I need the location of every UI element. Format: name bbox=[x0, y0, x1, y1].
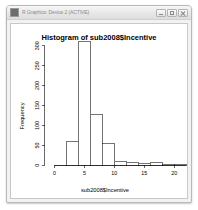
x-tick-label: 15 bbox=[141, 170, 147, 176]
histogram-bar bbox=[78, 42, 90, 166]
histogram-bar bbox=[90, 114, 102, 165]
y-axis: 0 50 100 150 200 250 300 bbox=[34, 41, 45, 167]
chart-title: Histogram of sub2008$Incentive bbox=[41, 33, 156, 42]
x-tick-label: 20 bbox=[171, 170, 177, 176]
x-axis-title: sub2008$Incentive bbox=[81, 187, 129, 193]
x-tick-label: 10 bbox=[111, 170, 117, 176]
y-tick-label: 250 bbox=[34, 61, 40, 70]
r-graphics-window: R Graphics: Device 2 (ACTIVE) Histogram … bbox=[6, 5, 192, 203]
y-axis-title: Frequency bbox=[19, 102, 25, 129]
y-tick-label: 200 bbox=[34, 81, 40, 90]
y-tick-label: 300 bbox=[34, 41, 40, 50]
plot-canvas: Histogram of sub2008$Incentive Frequency… bbox=[10, 23, 188, 199]
minimize-button[interactable] bbox=[156, 9, 166, 17]
window-controls bbox=[156, 9, 188, 17]
y-axis-tick-labels: 0 50 100 150 200 250 300 bbox=[34, 41, 40, 167]
x-axis-tick-labels: 0 5 10 15 20 bbox=[53, 170, 177, 176]
x-tick-label: 0 bbox=[53, 170, 56, 176]
y-axis-ticks bbox=[42, 46, 45, 166]
maximize-button[interactable] bbox=[167, 9, 177, 17]
desktop-background: R Graphics: Device 2 (ACTIVE) Histogram … bbox=[0, 0, 198, 210]
histogram-bar bbox=[138, 163, 150, 165]
y-tick-label: 50 bbox=[34, 142, 40, 148]
x-tick-label: 5 bbox=[83, 170, 86, 176]
y-tick-label: 0 bbox=[34, 164, 40, 167]
close-button[interactable] bbox=[178, 9, 188, 17]
histogram-bar bbox=[102, 144, 114, 166]
histogram-bar bbox=[66, 142, 78, 166]
histogram-bar bbox=[114, 161, 126, 165]
window-titlebar[interactable]: R Graphics: Device 2 (ACTIVE) bbox=[7, 6, 191, 20]
y-tick-label: 150 bbox=[34, 101, 40, 110]
x-axis: 0 5 10 15 20 bbox=[53, 165, 186, 176]
x-axis-ticks bbox=[55, 165, 175, 168]
histogram-bars bbox=[55, 42, 187, 166]
histogram-bar bbox=[150, 162, 162, 165]
histogram-chart: Histogram of sub2008$Incentive Frequency… bbox=[11, 24, 187, 198]
histogram-bar bbox=[126, 162, 138, 165]
r-graphics-icon bbox=[10, 8, 19, 17]
window-title: R Graphics: Device 2 (ACTIVE) bbox=[22, 9, 156, 16]
y-tick-label: 100 bbox=[34, 121, 40, 130]
